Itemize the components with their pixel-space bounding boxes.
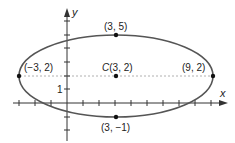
- left-vertex-point: [17, 74, 21, 78]
- center-label-coords: (3, 2): [109, 62, 132, 73]
- x-axis: [13, 100, 228, 106]
- right-vertex-point: [211, 74, 215, 78]
- y-tick-label: 1: [57, 84, 63, 95]
- center-point: [114, 74, 118, 78]
- y-axis-arrow-icon: [64, 8, 70, 17]
- top-vertex-point: [114, 33, 118, 37]
- x-axis-label: x: [219, 87, 226, 99]
- y-axis: [64, 8, 70, 141]
- ellipse-diagram: y x 1 (3, 5) (3, −1) (−3, 2) (9, 2) C(3,…: [0, 0, 235, 143]
- top-vertex-label: (3, 5): [104, 21, 127, 32]
- center-label: C(3, 2): [102, 62, 133, 73]
- left-vertex-label: (−3, 2): [24, 62, 53, 73]
- x-axis-arrow-icon: [219, 100, 228, 106]
- right-vertex-label: (9, 2): [182, 62, 205, 73]
- bottom-vertex-label: (3, −1): [101, 122, 130, 133]
- bottom-vertex-point: [114, 115, 118, 119]
- y-axis-label: y: [71, 6, 79, 18]
